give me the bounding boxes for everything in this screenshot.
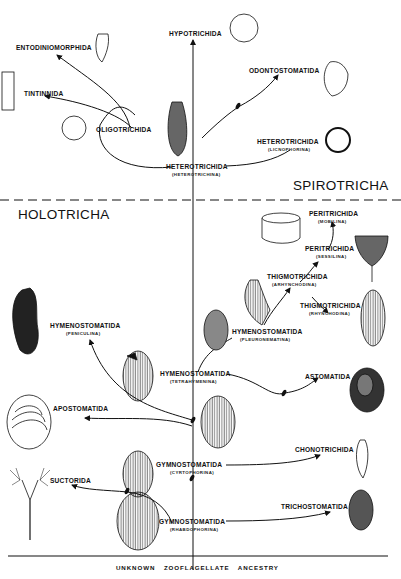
sub-peniculina: (PENICULINA) <box>66 331 101 336</box>
sub-heterotrichina: (HETEROTRICHINA) <box>172 172 221 177</box>
sub-pleuronematina: (PLEURONEMATINA) <box>240 337 290 342</box>
label-hymenostomatida-peniculina: HYMENOSTOMATIDA <box>50 322 121 329</box>
label-thigmotrichida-arhynchodina: THIGMOTRICHIDA <box>267 273 328 280</box>
label-apostomatida: APOSTOMATIDA <box>53 405 108 412</box>
label-hymenostomatida-pleuronematina: HYMENOSTOMATIDA <box>232 328 303 335</box>
label-heterotrichida-heterotrichina: HETEROTRICHIDA <box>166 163 228 170</box>
sub-mobilina: (MOBILINA) <box>318 219 347 224</box>
label-peritrichida-mobilina: PERITRICHIDA <box>309 210 358 217</box>
label-chonotrichida: CHONOTRICHIDA <box>295 446 354 453</box>
label-heterotrichida-licnophorina: HETEROTRICHIDA <box>257 138 319 145</box>
sub-sessilina: (SESSILINA) <box>316 254 347 259</box>
sub-arhynchodina: (ARHYNCHODINA) <box>272 282 317 287</box>
label-entodiniomorphida: ENTODINIOMORPHIDA <box>16 44 92 51</box>
tree-lines <box>0 0 401 579</box>
label-astomatida: ASTOMATIDA <box>305 373 350 380</box>
label-odontostomatida: ODONTOSTOMATIDA <box>249 67 319 74</box>
label-thigmotrichida-rhynchodina: THIGMOTRICHIDA <box>300 302 361 309</box>
label-trichostomatida: TRICHOSTOMATIDA <box>281 503 348 510</box>
sub-rhynchodina: (RHYNCHODINA) <box>309 311 350 316</box>
sub-cyrtophorina: (CYRTOPHORINA) <box>170 470 214 475</box>
sub-tetrahymenina: (TETRAHYMENINA) <box>170 379 217 384</box>
sub-rhabdophorina: (RHABDOPHORINA) <box>170 527 218 532</box>
ciliate-phylogeny-diagram: ENTODINIOMORPHIDA HYPOTRICHIDA TINTINNID… <box>0 0 401 579</box>
label-oligotrichida: OLIGOTRICHIDA <box>96 126 151 133</box>
label-gymnostomatida-rhabdophorina: GYMNOSTOMATIDA <box>159 518 225 525</box>
root-label: UNKNOWN ZOOFLAGELLATE ANCESTRY <box>116 564 279 571</box>
label-tintinnida: TINTINNIDA <box>24 90 63 97</box>
group-holotricha: HOLOTRICHA <box>18 207 110 222</box>
label-suctorida: SUCTORIDA <box>50 477 91 484</box>
sub-licnophorina: (LICNOPHORINA) <box>268 147 310 152</box>
label-gymnostomatida-cyrtophorina: GYMNOSTOMATIDA <box>156 461 222 468</box>
group-spirotricha: SPIROTRICHA <box>293 178 389 193</box>
label-hymenostomatida-tetrahymenina: HYMENOSTOMATIDA <box>160 370 231 377</box>
label-peritrichida-sessilina: PERITRICHIDA <box>305 245 354 252</box>
label-hypotrichida: HYPOTRICHIDA <box>169 30 222 37</box>
